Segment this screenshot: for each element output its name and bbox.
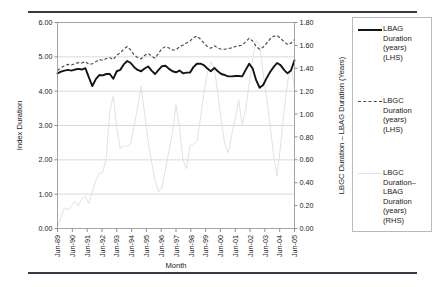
right-axis-tick-labels: 0.000.200.400.600.801.001.201.401.601.80 [300, 18, 314, 233]
y2-tick-label: 1.00 [300, 110, 314, 119]
series-light [58, 41, 295, 226]
y2-tick-label: 0.20 [300, 201, 314, 210]
x-tick-label: Jun-92 [98, 235, 107, 257]
right-axis-ticks [295, 23, 298, 229]
gridlines [58, 57, 295, 194]
series-dashed [58, 36, 295, 71]
x-tick-label: Jun-97 [172, 235, 181, 257]
y2-tick-label: 0.60 [300, 155, 314, 164]
left-axis-tick-labels: 0.001.002.003.004.005.006.00 [39, 18, 53, 233]
legend-item-label: LBGC Duration (years) (LHS) [383, 96, 412, 134]
y2-tick-label: 1.20 [300, 87, 314, 96]
x-tick-label: Jun-04 [275, 235, 284, 257]
y2-tick-label: 1.60 [300, 41, 314, 50]
x-tick-label: Jun-93 [112, 235, 121, 257]
legend-item-label: LBGC Duration– LBAG Duration (years) (RH… [383, 168, 416, 226]
y-tick-label: 5.00 [39, 52, 53, 61]
y-tick-label: 6.00 [39, 18, 53, 27]
y2-axis-title: LBGC Duration – LBAG Duration (Years) [337, 56, 346, 194]
legend-key-light-icon [357, 169, 383, 178]
legend-item-label: LBAG Duration (years) (LHS) [383, 24, 412, 62]
x-axis-tick-labels: Jun-89Jun-90Jun-91Jun-92Jun-93Jun-94Jun-… [53, 235, 299, 257]
x-tick-label: Jun-91 [83, 235, 92, 257]
legend-item-dashed[interactable]: LBGC Duration (years) (LHS) [357, 96, 412, 134]
x-tick-label: Jun-99 [201, 235, 210, 257]
x-tick-label: Jun-89 [53, 235, 62, 257]
x-axis-title: Month [165, 261, 186, 270]
y2-tick-label: 1.40 [300, 64, 314, 73]
y-tick-label: 2.00 [39, 155, 53, 164]
series-solid [58, 60, 295, 87]
x-tick-label: Jun-00 [216, 235, 225, 257]
y-tick-label: 3.00 [39, 121, 53, 130]
y-tick-label: 1.00 [39, 190, 53, 199]
x-tick-label: Jun-96 [157, 235, 166, 257]
chart-legend: LBAG Duration (years) (LHS)LBGC Duration… [352, 17, 432, 232]
data-series-layer [58, 36, 295, 227]
legend-key-dashed-icon [357, 97, 383, 106]
y-axis-title: Index Duration [15, 101, 24, 150]
x-tick-label: Jun-98 [187, 235, 196, 257]
x-tick-label: Jun-01 [231, 235, 240, 257]
x-tick-label: Jun-94 [127, 235, 136, 257]
y-tick-label: 0.00 [39, 224, 53, 233]
x-axis-ticks [58, 229, 295, 233]
figure: 0.001.002.003.004.005.006.00 0.000.200.4… [0, 0, 445, 287]
x-tick-label: Jun-02 [246, 235, 255, 257]
x-tick-label: Jun-05 [290, 235, 299, 257]
y2-tick-label: 0.40 [300, 178, 314, 187]
y2-tick-label: 0.00 [300, 224, 314, 233]
legend-key-solid-icon [357, 25, 383, 34]
legend-item-solid[interactable]: LBAG Duration (years) (LHS) [357, 24, 412, 62]
x-tick-label: Jun-90 [68, 235, 77, 257]
left-axis-ticks [55, 23, 58, 229]
y-tick-label: 4.00 [39, 87, 53, 96]
x-tick-label: Jun-95 [142, 235, 151, 257]
legend-item-light[interactable]: LBGC Duration– LBAG Duration (years) (RH… [357, 168, 416, 226]
x-tick-label: Jun-03 [261, 235, 270, 257]
y2-tick-label: 1.80 [300, 18, 314, 27]
y2-tick-label: 0.80 [300, 133, 314, 142]
